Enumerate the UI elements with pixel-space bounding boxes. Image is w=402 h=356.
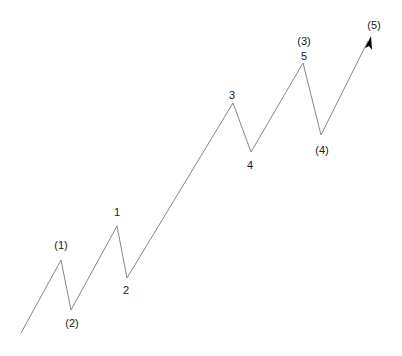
label-minor-wave-1: (1) [54, 240, 67, 251]
label-minor-wave-3: (3) [297, 36, 310, 47]
label-sub-wave-4: 4 [247, 160, 253, 171]
label-minor-wave-4: (4) [315, 145, 328, 156]
label-sub-wave-1: 1 [114, 207, 120, 218]
label-minor-wave-5: (5) [367, 20, 380, 31]
label-sub-wave-2: 2 [123, 285, 129, 296]
elliott-wave-diagram: (1) (2) 1 2 3 4 (3) 5 (4) (5) [0, 0, 402, 356]
wave-chart-svg [0, 0, 402, 356]
label-minor-wave-2: (2) [65, 318, 78, 329]
wave-polyline [21, 41, 368, 333]
label-sub-wave-5: 5 [301, 51, 307, 62]
label-sub-wave-3: 3 [229, 90, 235, 101]
arrow-head-icon [365, 36, 372, 50]
